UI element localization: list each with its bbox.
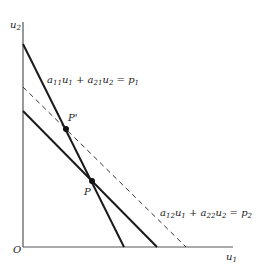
point-p-label: P (83, 186, 91, 197)
x-axis-label: u1 (226, 251, 237, 264)
point-p (89, 178, 95, 184)
point-p-prime-label: P' (67, 112, 77, 123)
y-axis-label: u2 (10, 19, 21, 32)
equation-1: a11u1 + a21u2 = p1 (47, 74, 139, 87)
equation-2: a12u1 + a22u2 = p2 (160, 207, 253, 220)
point-p-prime (63, 126, 69, 132)
origin-label: O (13, 244, 21, 255)
diagram-canvas: P' P u2 u1 O a11u1 + a21u2 = p1 a12u1 + … (0, 0, 259, 271)
line-dashed (23, 87, 186, 247)
